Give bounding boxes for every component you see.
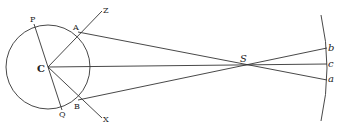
- screen-arc: [321, 15, 327, 121]
- label-q: Q: [59, 110, 66, 119]
- label-a-small: a: [328, 73, 334, 84]
- label-s: S: [240, 53, 247, 64]
- label-c-small: c: [328, 58, 334, 69]
- label-b-small: b: [328, 42, 334, 53]
- label-z: Z: [103, 6, 109, 15]
- label-x: X: [103, 115, 109, 124]
- label-b: B: [74, 102, 80, 111]
- label-p: P: [30, 15, 36, 24]
- line-cz: [48, 11, 102, 67]
- label-c: C: [37, 63, 45, 74]
- diagram: P A Z C B Q X S b c a: [0, 0, 337, 130]
- label-a: A: [72, 23, 79, 32]
